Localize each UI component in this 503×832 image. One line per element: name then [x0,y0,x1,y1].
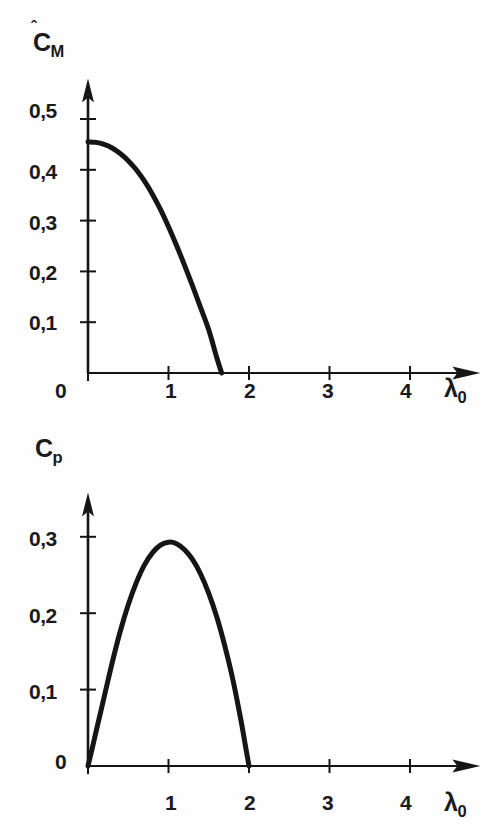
chart-top-ytick-0.3: 0,3 [29,211,57,235]
x-title-sub-b: 0 [457,802,466,820]
chart-top-xtick-2: 2 [244,379,255,403]
chart-top-x-axis-title: λ0 [444,374,467,407]
chart-top-ytick-0.5: 0,5 [29,99,57,123]
chart-top-xtick-4: 4 [400,379,411,403]
chart-top-ytick-0.2: 0,2 [29,261,57,285]
y-title-base-b: C [35,434,53,462]
chart-bottom-xtick-3: 3 [322,791,333,815]
chart-bottom-ytick-0.3: 0,3 [29,527,57,551]
chart-panel-top: ̂CM 0,5 0,4 0,3 0,2 0,1 0 1 2 3 4 λ0 [0,0,503,420]
x-title-sub: 0 [457,388,466,406]
chart-top-xtick-3: 3 [322,379,333,403]
chart-top-y-axis-title: ̂CM [33,28,64,61]
chart-top-plot [0,0,503,420]
chart-bottom-ytick-0: 0 [55,750,66,774]
y-title-base: C [33,28,51,56]
y-title-sub-b: p [53,448,63,466]
chart-bottom-y-axis-title: Cp [35,434,63,467]
chart-panel-bottom: Cp 0,3 0,2 0,1 0 1 2 3 4 λ0 [0,410,503,832]
chart-top-ytick-0.1: 0,1 [29,311,57,335]
chart-top-axes [80,79,480,381]
chart-bottom-plot [0,410,503,832]
chart-bottom-curve [88,542,249,766]
x-title-base-b: λ [444,788,457,816]
chart-top-xtick-0: 0 [55,379,66,403]
chart-bottom-ytick-0.2: 0,2 [29,604,57,628]
chart-bottom-ytick-0.1: 0,1 [29,680,57,704]
chart-top-xtick-1: 1 [165,379,176,403]
y-title-sub: M [51,42,65,60]
chart-top-curve [88,142,222,373]
chart-bottom-axes [80,492,480,774]
figure-container: ̂CM 0,5 0,4 0,3 0,2 0,1 0 1 2 3 4 λ0 Cp … [0,0,503,832]
chart-bottom-xtick-1: 1 [165,791,176,815]
chart-bottom-xtick-4: 4 [400,791,411,815]
x-title-base: λ [444,374,457,402]
c-hat-glyph: ̂C [33,28,51,57]
chart-top-ytick-0.4: 0,4 [29,160,57,184]
chart-bottom-x-axis-title: λ0 [444,788,467,821]
chart-bottom-xtick-2: 2 [244,791,255,815]
